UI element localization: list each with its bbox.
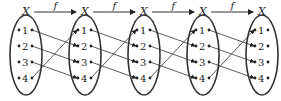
element-label: 2: [81, 41, 87, 52]
element-label: 4: [199, 73, 205, 84]
set-label: X: [198, 5, 208, 18]
set-label: X: [80, 5, 90, 18]
element-label: 4: [81, 73, 87, 84]
function-label: f: [53, 0, 60, 11]
element-label: 2: [22, 41, 28, 52]
element-label: 1: [81, 25, 87, 36]
element-label: 3: [199, 57, 205, 68]
element-label: 1: [199, 25, 205, 36]
function-label: f: [230, 0, 237, 11]
element-label: 3: [140, 57, 146, 68]
element-label: 2: [199, 41, 205, 52]
function-label: f: [112, 0, 119, 11]
element-label: 1: [140, 25, 146, 36]
element-label: 3: [258, 57, 264, 68]
element-label: 1: [258, 25, 264, 36]
function-diagram: X1234fX1234fX1234fX1234fX1234: [0, 0, 281, 101]
element-label: 4: [140, 73, 146, 84]
element-label: 4: [22, 73, 28, 84]
element-label: 2: [258, 41, 264, 52]
element-label: 4: [258, 73, 264, 84]
element-label: 2: [140, 41, 146, 52]
set-label: X: [21, 5, 31, 18]
function-label: f: [171, 0, 178, 11]
element-label: 3: [81, 57, 87, 68]
set-label: X: [139, 5, 149, 18]
element-label: 3: [22, 57, 28, 68]
element-label: 1: [22, 25, 28, 36]
set-label: X: [257, 5, 267, 18]
